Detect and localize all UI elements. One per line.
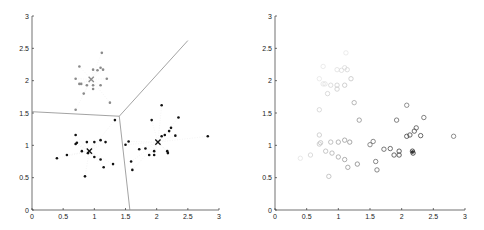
data-point-circle <box>371 139 375 143</box>
data-point-circle <box>352 100 356 104</box>
data-point-circle <box>451 134 455 138</box>
data-point <box>74 77 77 80</box>
x-tick-label: 2 <box>400 213 404 220</box>
reference-point <box>411 150 414 153</box>
centroid-link <box>85 151 89 176</box>
data-point <box>82 92 85 95</box>
data-point-circle <box>355 162 359 166</box>
y-tick-label: 3 <box>25 13 29 20</box>
data-point-circle <box>422 115 426 119</box>
centroid-link <box>57 151 89 158</box>
data-point-circle <box>308 153 312 157</box>
data-point-circle <box>321 64 325 68</box>
data-point <box>92 68 95 71</box>
data-point <box>99 139 102 142</box>
data-point <box>163 134 166 137</box>
voronoi-boundary <box>32 112 119 117</box>
data-point <box>99 158 102 161</box>
data-point-circle <box>348 140 352 144</box>
data-point <box>144 147 147 150</box>
data-point <box>109 101 112 104</box>
data-point-circle <box>329 140 333 144</box>
data-point-circle <box>394 118 398 122</box>
x-tick-label: 0 <box>30 213 34 220</box>
centroid-link <box>139 142 158 149</box>
data-point-circle <box>325 91 329 95</box>
y-tick-label: 2 <box>268 77 272 84</box>
data-point <box>153 154 156 157</box>
data-point <box>177 116 180 119</box>
data-point <box>106 77 109 80</box>
centroid-link <box>91 79 107 80</box>
voronoi-boundary <box>119 41 188 117</box>
y-tick-label: 0 <box>25 207 29 214</box>
data-point <box>114 119 117 122</box>
data-point <box>76 141 79 144</box>
y-tick-label: 1 <box>268 142 272 149</box>
y-tick-label: 2 <box>25 77 29 84</box>
data-point <box>148 154 151 157</box>
x-tick-label: 0.5 <box>58 213 68 220</box>
left-scatter-panel: 00.511.522.5300.511.522.53 <box>19 13 221 221</box>
data-point <box>78 65 81 68</box>
y-tick-label: 0.5 <box>262 174 272 181</box>
voronoi-boundary <box>119 116 130 210</box>
data-point <box>101 52 104 55</box>
data-point <box>86 84 89 87</box>
data-point <box>74 108 77 111</box>
data-point <box>96 69 99 72</box>
y-tick-label: 1.5 <box>19 110 29 117</box>
data-point-circle <box>342 157 346 161</box>
data-point <box>174 134 177 137</box>
data-point <box>86 141 89 144</box>
data-point-circle <box>342 83 346 87</box>
centroid-link <box>91 53 102 80</box>
data-point-circle <box>336 155 340 159</box>
data-point <box>84 175 87 178</box>
data-point <box>206 135 209 138</box>
x-tick-label: 3 <box>217 213 221 220</box>
data-point <box>167 152 170 155</box>
data-point <box>80 83 83 86</box>
y-tick-label: 2.5 <box>19 45 29 52</box>
y-tick-label: 1.5 <box>262 110 272 117</box>
data-point-circle <box>375 168 379 172</box>
data-point-circle <box>346 165 350 169</box>
x-tick-label: 0.5 <box>302 213 312 220</box>
data-point-circle <box>298 156 302 160</box>
data-point <box>99 66 102 69</box>
data-point-circle <box>357 118 361 122</box>
data-point-circle <box>327 174 331 178</box>
data-point <box>170 127 173 130</box>
centroid-link <box>67 151 89 155</box>
data-point <box>150 119 153 122</box>
data-point <box>130 160 133 163</box>
data-point-circle <box>323 149 327 153</box>
centroid-marker <box>89 77 94 82</box>
data-point <box>112 163 115 166</box>
x-tick-label: 3 <box>463 213 467 220</box>
x-tick-label: 2.5 <box>428 213 438 220</box>
data-point <box>74 134 77 137</box>
data-point <box>102 166 105 169</box>
data-point-circle <box>317 133 321 137</box>
data-point <box>93 156 96 159</box>
y-tick-label: 0 <box>268 207 272 214</box>
data-point <box>92 84 95 87</box>
y-tick-label: 2.5 <box>262 45 272 52</box>
data-point-circle <box>335 67 339 71</box>
data-point-circle <box>388 146 392 150</box>
centroid-link <box>91 79 110 102</box>
data-point-circle <box>336 140 340 144</box>
data-point-circle <box>329 83 333 87</box>
y-tick-label: 3 <box>268 13 272 20</box>
data-point-circle <box>405 103 409 107</box>
data-point-circle <box>392 153 396 157</box>
data-point <box>92 88 95 91</box>
x-tick-label: 1.5 <box>365 213 375 220</box>
data-point-circle <box>418 133 422 137</box>
centroid-link <box>129 141 158 142</box>
data-point <box>81 150 84 153</box>
data-point-circle <box>349 77 353 81</box>
data-point-circle <box>382 147 386 151</box>
